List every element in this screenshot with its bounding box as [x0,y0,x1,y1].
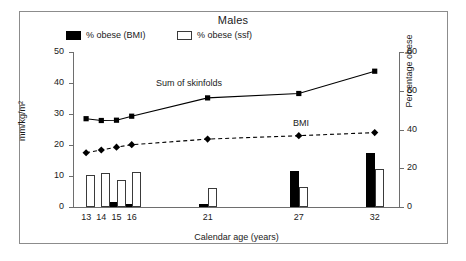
y-axis-right-tick-label: 60 [407,85,429,95]
bar-obese-ssf [208,188,217,207]
legend-item-obese-ssf: % obese (ssf) [177,30,252,40]
y-axis-left-tick-label: 20 [42,139,64,149]
bar-obese-ssf [101,173,110,207]
y-axis-right-tick-label: 40 [407,124,429,134]
x-axis-tick-label: 27 [284,212,314,222]
y-axis-right-tick [400,207,404,208]
legend-label-obese-ssf: % obese (ssf) [197,30,252,40]
chart-title: Males [0,14,466,26]
bar-obese-ssf [86,175,95,207]
legend-swatch-open-square [177,31,192,40]
y-axis-left-tick [69,83,73,84]
y-axis-right-tick [400,52,404,53]
bar-obese-bmi [199,204,208,207]
x-axis-tick-label: 32 [360,212,390,222]
y-axis-left-tick [69,114,73,115]
y-axis-left-tick [69,207,73,208]
figure-border [19,11,448,244]
x-axis-tick-label: 21 [193,212,223,222]
bar-obese-ssf [132,172,141,207]
bar-obese-ssf [117,180,126,207]
bar-obese-ssf [299,187,308,207]
y-axis-left-tick [69,176,73,177]
y-axis-right-tick [400,91,404,92]
y-axis-right-tick [400,168,404,169]
legend-label-obese-bmi: % obese (BMI) [86,30,146,40]
y-axis-left-tick [69,145,73,146]
y-axis-left-tick [69,52,73,53]
legend-item-obese-bmi: % obese (BMI) [66,30,146,40]
x-axis-label: Calendar age (years) [73,232,400,242]
annotation-bmi: BMI [293,118,309,128]
y-axis-left-tick-label: 0 [42,201,64,211]
annotation-sum-of-skinfolds: Sum of skinfolds [156,78,222,88]
y-axis-left-tick-label: 40 [42,77,64,87]
legend-swatch-filled-square [66,31,81,40]
y-axis-right-tick-label: 20 [407,162,429,172]
bar-obese-bmi [366,153,375,207]
y-axis-right-tick-label: 0 [407,201,429,211]
y-axis-left-tick-label: 10 [42,170,64,180]
bar-obese-bmi [290,171,299,207]
y-axis-left-tick-label: 30 [42,108,64,118]
y-axis-left-line [73,52,74,208]
x-axis-tick-label: 16 [117,212,147,222]
y-axis-right-tick [400,130,404,131]
y-axis-left-label: mm/kg/m² [17,81,27,161]
y-axis-right-label: Percentage obese [404,26,414,116]
bar-obese-ssf [375,169,384,207]
y-axis-right-tick-label: 80 [407,46,429,56]
chart-figure: Males % obese (BMI) % obese (ssf) mm/kg/… [0,0,466,261]
x-axis-line [73,207,400,208]
y-axis-left-tick-label: 50 [42,46,64,56]
